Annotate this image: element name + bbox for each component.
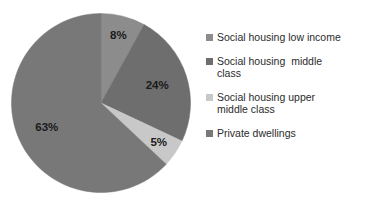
- legend-item-social-housing-upper-middle-class[interactable]: Social housing upper middle class: [206, 91, 369, 116]
- legend-swatch-icon: [206, 34, 213, 41]
- pie-label-3: 63%: [35, 121, 58, 133]
- pie-plot-area: 8% 24% 5% 63%: [11, 13, 191, 193]
- legend-swatch-icon: [206, 94, 213, 101]
- legend-swatch-icon: [206, 130, 213, 137]
- legend-item-social-housing-low-income[interactable]: Social housing low income: [206, 31, 369, 44]
- legend-item-label: Social housing middle class: [217, 55, 322, 80]
- legend-item-label: Social housing upper middle class: [217, 91, 315, 116]
- pie-svg: 8% 24% 5% 63%: [11, 13, 191, 193]
- legend-item-private-dwellings[interactable]: Private dwellings: [206, 127, 369, 140]
- legend-swatch-icon: [206, 58, 213, 65]
- chart-legend: Social housing low income Social housing…: [206, 31, 369, 150]
- pie-label-1: 24%: [146, 79, 169, 91]
- legend-item-social-housing-middle-class[interactable]: Social housing middle class: [206, 55, 369, 80]
- legend-item-label: Private dwellings: [217, 127, 296, 140]
- pie-label-0: 8%: [110, 29, 127, 41]
- pie-slices: [12, 14, 191, 193]
- pie-chart-figure: Housing stock by tenure 8% 24% 5% 63% So…: [0, 0, 371, 202]
- legend-item-label: Social housing low income: [217, 31, 341, 44]
- pie-label-2: 5%: [150, 136, 167, 148]
